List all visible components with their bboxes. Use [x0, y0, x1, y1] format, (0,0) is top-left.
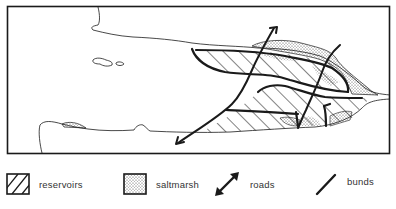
legend-label-reservoirs: reservoirs: [39, 179, 83, 190]
legend-item-bunds: bunds: [314, 172, 374, 196]
bund-line-icon: [314, 172, 338, 196]
hatched-square-icon: [6, 173, 30, 195]
legend-label-saltmarsh: saltmarsh: [156, 179, 199, 190]
legend-label-bunds: bunds: [347, 176, 374, 187]
legend-item-reservoirs: reservoirs: [6, 172, 83, 196]
legend-item-roads: roads: [213, 172, 275, 196]
legend-item-saltmarsh: saltmarsh: [123, 172, 199, 196]
island-small: [116, 62, 124, 66]
legend-label-roads: roads: [250, 179, 275, 190]
legend: reservoirs saltmarsh roads bunds: [0, 166, 396, 206]
double-arrow-icon: [213, 171, 241, 197]
stippled-square-icon: [123, 173, 147, 195]
estuary-map: [0, 0, 396, 160]
island-large: [93, 58, 112, 66]
